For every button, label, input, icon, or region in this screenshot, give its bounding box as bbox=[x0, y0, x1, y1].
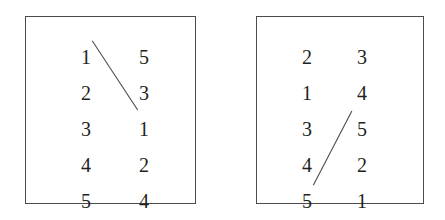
panel-right-left-item-1: 2 bbox=[287, 47, 327, 67]
panel-left-right-item-2: 3 bbox=[124, 83, 164, 103]
panel-left-left-item-3: 3 bbox=[66, 119, 106, 139]
panel-left-column-left: 1 2 3 4 5 bbox=[66, 17, 106, 203]
panel-right-right-item-2: 4 bbox=[342, 83, 382, 103]
panel-right-column-right: 3 4 5 2 1 bbox=[342, 17, 382, 203]
panel-right-column-left: 2 1 3 4 5 bbox=[287, 17, 327, 203]
panel-left-right-item-4: 2 bbox=[124, 155, 164, 175]
panel-left-left-item-2: 2 bbox=[66, 83, 106, 103]
panel-left-left-item-5: 5 bbox=[66, 191, 106, 211]
panel-left: 1 2 3 4 5 5 3 1 2 4 bbox=[25, 16, 196, 204]
panel-left-left-item-4: 4 bbox=[66, 155, 106, 175]
panel-left-right-item-3: 1 bbox=[124, 119, 164, 139]
panel-left-link-layer bbox=[26, 17, 195, 203]
panel-right-left-item-5: 5 bbox=[287, 191, 327, 211]
panel-right-left-item-3: 3 bbox=[287, 119, 327, 139]
panel-left-right-item-1: 5 bbox=[124, 47, 164, 67]
panel-right-right-item-1: 3 bbox=[342, 47, 382, 67]
panel-left-column-right: 5 3 1 2 4 bbox=[124, 17, 164, 203]
panel-right-left-item-4: 4 bbox=[287, 155, 327, 175]
panel-left-right-item-5: 4 bbox=[124, 191, 164, 211]
panel-left-left-item-1: 1 bbox=[66, 47, 106, 67]
panel-right-right-item-5: 1 bbox=[342, 191, 382, 211]
panel-right-right-item-3: 5 bbox=[342, 119, 382, 139]
panel-right-link-layer bbox=[257, 17, 423, 203]
panel-right-left-item-2: 1 bbox=[287, 83, 327, 103]
figure-canvas: 1 2 3 4 5 5 3 1 2 4 2 1 3 4 5 3 4 5 bbox=[0, 0, 445, 220]
panel-right-right-item-4: 2 bbox=[342, 155, 382, 175]
panel-right: 2 1 3 4 5 3 4 5 2 1 bbox=[256, 16, 424, 204]
